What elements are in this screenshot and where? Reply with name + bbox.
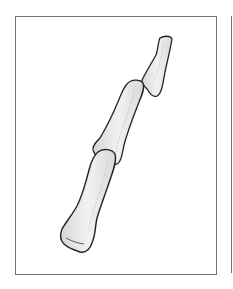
proximal-phalanx-icon (61, 150, 116, 253)
distal-phalanx-icon (142, 36, 172, 96)
finger-bones-illustration (0, 0, 233, 289)
